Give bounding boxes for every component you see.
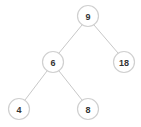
node-label: 8	[85, 105, 90, 115]
edge-6-4	[25, 71, 47, 100]
tree-canvas: 9 6 18 4 8	[0, 0, 141, 127]
node-6: 6	[43, 52, 64, 73]
edge-9-6	[59, 25, 82, 53]
node-label: 9	[85, 12, 90, 22]
edge-6-8	[59, 71, 82, 100]
node-18: 18	[114, 52, 135, 73]
node-label: 6	[50, 58, 55, 68]
edge-9-18	[94, 25, 118, 53]
node-9: 9	[78, 6, 99, 27]
node-8: 8	[78, 99, 99, 120]
node-4: 4	[9, 99, 30, 120]
node-label: 4	[16, 105, 21, 115]
edges	[25, 25, 118, 100]
binary-tree-diagram: 9 6 18 4 8	[0, 0, 141, 127]
node-label: 18	[119, 58, 129, 68]
